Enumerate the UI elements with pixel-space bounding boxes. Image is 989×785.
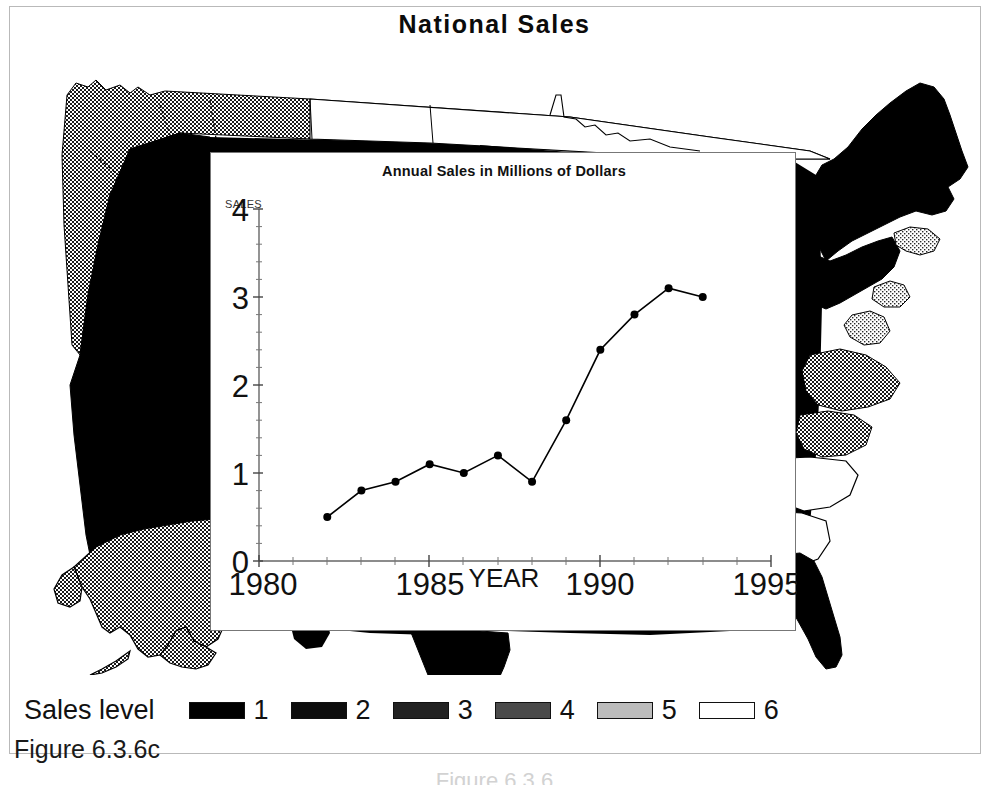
y-tick-label-4: 4 — [232, 193, 249, 228]
data-point — [665, 284, 673, 292]
legend-item: 3 — [393, 697, 473, 724]
legend-item: 4 — [495, 697, 575, 724]
legend-swatch — [291, 702, 347, 719]
legend-label: 3 — [458, 697, 473, 724]
data-point — [392, 478, 400, 486]
legend-item: 2 — [291, 697, 371, 724]
legend-swatch — [699, 702, 755, 719]
legend-item: 6 — [699, 697, 779, 724]
figure-caption-secondary: Figure 6.3.6 — [0, 768, 989, 785]
legend-item: 5 — [597, 697, 677, 724]
legend-label: 2 — [356, 697, 371, 724]
legend-label: 1 — [254, 697, 269, 724]
legend-swatch — [189, 702, 245, 719]
data-point — [426, 460, 434, 468]
legend-label: 4 — [560, 697, 575, 724]
legend-title: Sales level — [24, 695, 155, 726]
inset-chart-panel: Annual Sales in Millions of Dollars SALE… — [210, 152, 796, 631]
y-tick-label-3: 3 — [232, 281, 249, 316]
legend-swatch — [597, 702, 653, 719]
figure-page: National Sales — [0, 0, 989, 785]
legend-items: 123456 — [189, 697, 801, 724]
legend-swatch — [495, 702, 551, 719]
data-point — [323, 513, 331, 521]
data-point — [596, 346, 604, 354]
map-region-northeast — [814, 83, 968, 309]
map-region-texas — [410, 629, 510, 675]
data-point — [562, 416, 570, 424]
legend-label: 5 — [662, 697, 677, 724]
chart-plot-area: 4 3 2 1 0 — [211, 153, 797, 632]
legend-swatch — [393, 702, 449, 719]
map-legend: Sales level 123456 — [24, 690, 974, 730]
data-point — [357, 487, 365, 495]
x-axis-label: YEAR — [211, 563, 797, 594]
data-point — [699, 293, 707, 301]
legend-label: 6 — [764, 697, 779, 724]
y-tick-label-2: 2 — [232, 369, 249, 404]
sales-line-series — [327, 288, 702, 517]
figure-caption: Figure 6.3.6c — [14, 735, 160, 764]
page-title: National Sales — [0, 10, 989, 39]
data-point — [630, 311, 638, 319]
y-tick-label-1: 1 — [232, 457, 249, 492]
data-point — [528, 478, 536, 486]
data-point — [494, 451, 502, 459]
legend-item: 1 — [189, 697, 269, 724]
data-point — [460, 469, 468, 477]
